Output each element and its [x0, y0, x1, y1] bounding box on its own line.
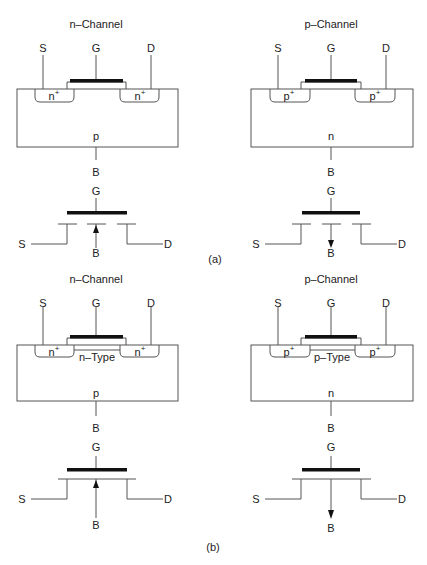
b-n-substrate-label: p: [93, 387, 99, 399]
gate-oxide: [67, 338, 126, 345]
a-n-sym-body-label: B: [92, 247, 99, 259]
source-wire: [31, 479, 67, 499]
b-n-sym-drain-label: D: [164, 493, 172, 505]
a-p-sym-body-label: B: [327, 247, 334, 259]
b-p-gate-label: G: [327, 297, 336, 309]
source-wire: [265, 224, 301, 244]
b-n-source-label: S: [39, 297, 46, 309]
a-p-drain-label: D: [382, 42, 390, 54]
gate-oxide: [67, 82, 126, 89]
source-wire: [31, 224, 67, 244]
b-p-drain-well-label: p+: [370, 346, 381, 358]
a-p-source-well-label: p+: [284, 90, 295, 102]
b-p-substrate-label: n: [328, 387, 334, 399]
b-n-drain-well-label: n+: [135, 346, 146, 358]
gate-oxide: [301, 338, 361, 345]
a-p-gate-metal: [305, 79, 357, 83]
a-p-gate-bar: [302, 211, 360, 215]
a-p-sym-source-label: S: [252, 238, 259, 250]
drain-wire: [127, 224, 163, 244]
b-n-channel-type-label: n–Type: [79, 351, 115, 363]
b-n-gate-bar: [67, 468, 127, 472]
arrow-up-icon: [93, 225, 99, 233]
a-n-channel-title: n–Channel: [69, 18, 122, 30]
a-n-source-well-label: n+: [49, 90, 60, 102]
b-p-channel-title: p–Channel: [304, 273, 357, 285]
b-p-channel-type-label: p–Type: [314, 351, 350, 363]
a-n-sym-drain-label: D: [164, 238, 172, 250]
a-p-channel-title: p–Channel: [304, 18, 357, 30]
arrow-up-icon: [93, 480, 99, 488]
a-p-channel-symbol: [265, 198, 397, 244]
a-p-sym-gate-label: G: [327, 185, 336, 197]
caption-a: (a): [208, 253, 221, 265]
b-p-drain-label: D: [382, 297, 390, 309]
source-wire: [265, 479, 301, 499]
b-p-gate-bar: [302, 468, 360, 472]
a-n-gate-metal: [70, 79, 123, 83]
a-n-source-label: S: [39, 42, 46, 54]
a-n-drain-label: D: [147, 42, 155, 54]
a-n-drain-well-label: n+: [135, 90, 146, 102]
a-p-body-label: B: [327, 166, 334, 178]
arrow-down-icon: [328, 510, 334, 519]
b-n-source-well-label: n+: [49, 346, 60, 358]
b-n-sym-body-label: B: [92, 519, 99, 531]
b-n-channel-title: n–Channel: [69, 273, 122, 285]
drain-wire: [127, 479, 163, 499]
b-p-body-label: B: [327, 422, 334, 434]
b-p-sym-body-label: B: [327, 522, 334, 534]
a-n-sym-gate-label: G: [92, 185, 101, 197]
b-p-sym-source-label: S: [252, 493, 259, 505]
b-p-source-label: S: [274, 297, 281, 309]
a-p-substrate-label: n: [328, 130, 334, 142]
a-p-channel-cross-section: [251, 55, 413, 160]
a-n-channel-cross-section: [17, 55, 178, 160]
gate-oxide: [301, 82, 361, 89]
b-n-gate-label: G: [92, 297, 101, 309]
mosfet-diagram: [0, 0, 427, 565]
b-p-sym-gate-label: G: [327, 441, 336, 453]
a-p-drain-well-label: p+: [370, 90, 381, 102]
b-n-sym-source-label: S: [18, 493, 25, 505]
a-p-source-label: S: [274, 42, 281, 54]
b-n-sym-gate-label: G: [92, 441, 101, 453]
drain-wire: [361, 479, 397, 499]
b-p-gate-metal: [305, 335, 357, 339]
a-n-substrate-label: p: [93, 130, 99, 142]
a-p-gate-label: G: [327, 42, 336, 54]
a-n-body-label: B: [92, 166, 99, 178]
b-p-channel-symbol: [265, 456, 397, 511]
b-p-source-well-label: p+: [284, 346, 295, 358]
a-n-channel-symbol: [31, 198, 163, 248]
a-n-sym-source-label: S: [18, 238, 25, 250]
a-p-sym-drain-label: D: [398, 238, 406, 250]
b-n-gate-metal: [70, 335, 123, 339]
a-n-gate-label: G: [92, 42, 101, 54]
b-n-drain-label: D: [147, 297, 155, 309]
caption-b: (b): [206, 541, 219, 553]
b-n-body-label: B: [92, 422, 99, 434]
drain-wire: [361, 224, 397, 244]
a-n-gate-bar: [67, 211, 127, 215]
b-p-sym-drain-label: D: [398, 493, 406, 505]
